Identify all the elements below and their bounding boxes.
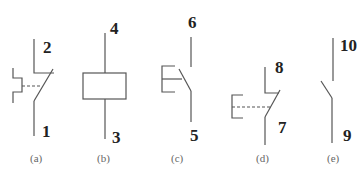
symbol-d-caption: (d) — [256, 152, 269, 165]
symbol-c-blade — [179, 69, 191, 91]
symbol-c: 6 5 (c) — [162, 13, 199, 165]
symbol-d-bottom-label: 7 — [278, 118, 287, 137]
symbol-a-blade — [34, 69, 53, 101]
symbol-d-blade — [265, 90, 280, 117]
symbol-c-caption: (c) — [171, 152, 184, 165]
symbol-b-caption: (b) — [97, 152, 110, 165]
symbol-c-bottom-label: 5 — [190, 126, 199, 145]
symbol-d-top-label: 8 — [275, 58, 284, 77]
symbol-e-blade — [321, 81, 332, 98]
symbol-b-coil-box — [83, 73, 126, 99]
symbol-e-top-label: 10 — [340, 36, 357, 55]
symbol-e-caption: (e) — [327, 152, 340, 165]
symbol-e: 10 9 (e) — [321, 36, 357, 165]
symbol-c-top-label: 6 — [188, 13, 197, 32]
symbol-a: 2 1 (a) — [13, 38, 54, 165]
symbol-e-bottom-label: 9 — [343, 126, 352, 145]
symbol-b-top-label: 4 — [110, 19, 119, 38]
electrical-symbols-diagram: 2 1 (a) 4 3 (b) 6 5 (c) 8 7 (d) — [0, 0, 362, 177]
symbol-b-bottom-label: 3 — [112, 128, 121, 147]
symbol-a-top-label: 2 — [43, 38, 52, 57]
symbol-a-bottom-label: 1 — [42, 122, 51, 141]
symbol-a-caption: (a) — [30, 152, 43, 165]
symbol-a-actuator — [13, 68, 22, 103]
symbol-b: 4 3 (b) — [83, 19, 126, 165]
symbol-d: 8 7 (d) — [232, 58, 287, 165]
